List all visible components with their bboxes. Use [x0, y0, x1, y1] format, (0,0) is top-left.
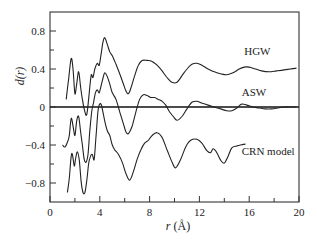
y-tick-label: 0.4 — [31, 63, 45, 75]
x-tick-label: 12 — [194, 206, 205, 218]
x-axis-title: r (Å) — [166, 219, 190, 233]
x-tick-label: 16 — [244, 206, 256, 218]
series-label-asw: ASW — [242, 86, 267, 98]
data-series — [63, 38, 297, 194]
x-tick-label: 0 — [47, 206, 53, 218]
series-line-crn-model — [67, 104, 245, 194]
y-axis-title: d(r) — [13, 67, 27, 86]
x-tick-label: 20 — [294, 206, 306, 218]
y-tick-label: −0.4 — [25, 139, 45, 151]
x-tick-label: 4 — [97, 206, 103, 218]
x-tick-label: 8 — [147, 206, 153, 218]
series-label-hgw: HGW — [244, 45, 271, 57]
y-tick-label: −0.8 — [25, 177, 45, 189]
y-tick-label: 0.8 — [31, 25, 45, 37]
series-labels: HGWASWCRN model — [242, 45, 295, 157]
series-label-crn-model: CRN model — [242, 145, 295, 157]
chart-canvas: 0481216200.80.40−0.4−0.8 HGWASWCRN model… — [0, 0, 317, 242]
y-tick-label: 0 — [40, 101, 46, 113]
